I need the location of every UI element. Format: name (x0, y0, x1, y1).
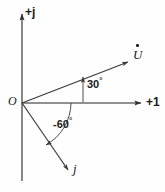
real-axis-label: +1 (146, 96, 160, 108)
phasor-dot-accent (136, 44, 139, 47)
unit-j-vector (22, 103, 68, 170)
diagram-canvas (0, 0, 165, 192)
angle-60-degree-symbol: ° (69, 116, 72, 125)
phasor-u-label: U (133, 48, 142, 61)
angle-60-label: -60° (53, 117, 72, 130)
imaginary-axis-label: +j (25, 6, 35, 18)
unit-j-label: j (73, 162, 77, 175)
phasor-u-letter: U (133, 47, 142, 62)
phasor-diagram-figure: +j +1 O U j 30° -60° (0, 0, 165, 192)
angle-30-degree-symbol: ° (99, 76, 102, 85)
angle-30-label: 30° (87, 77, 102, 90)
origin-label: O (8, 95, 17, 107)
angle-60-value: -60 (53, 118, 69, 130)
angle-30-value: 30 (87, 78, 99, 90)
phasor-u-vector (22, 62, 128, 103)
